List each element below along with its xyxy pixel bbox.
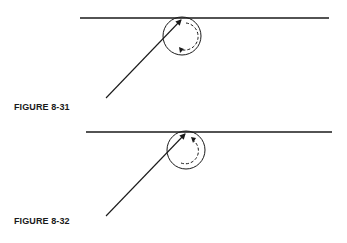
figure-8-31-drawing [80,17,329,98]
clockwise-rotation-arrow [183,23,198,50]
diagram-page: FIGURE 8-31 FIGURE 8-32 [0,0,347,243]
incident-ray-arrow [106,134,185,216]
rotation-arrowhead-icon [191,137,196,143]
diagram-canvas [0,0,347,243]
figure-label-8-32: FIGURE 8-32 [14,216,70,226]
figure-8-32-drawing [86,131,332,216]
counterclockwise-rotation-arrow [181,141,198,164]
figure-label-8-31: FIGURE 8-31 [14,102,70,112]
incident-ray-arrow [106,20,181,98]
